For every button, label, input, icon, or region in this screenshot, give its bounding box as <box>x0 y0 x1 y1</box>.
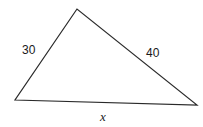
bottom-side-label: x <box>99 109 106 124</box>
triangle-diagram: 30 40 x <box>0 0 203 127</box>
left-side-label: 30 <box>22 43 36 57</box>
right-side-label: 40 <box>146 46 160 60</box>
triangle-shape <box>15 9 197 105</box>
